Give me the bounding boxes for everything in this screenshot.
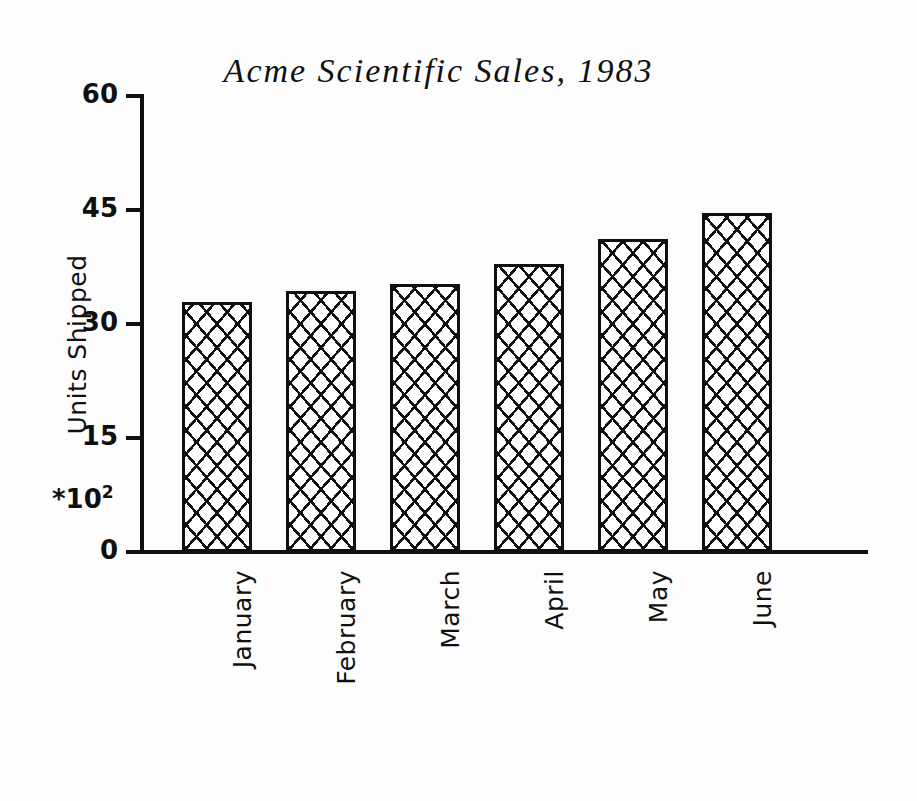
x-axis-tick-label: February: [332, 370, 361, 570]
bar-chart-figure: Acme Scientific Sales, 1983 604530150 Un…: [0, 0, 917, 801]
x-axis-tick-label: May: [644, 370, 673, 570]
x-axis-tick-label-text: January: [228, 570, 257, 770]
x-axis-tick-label: March: [436, 370, 465, 570]
x-axis-tick-label-text: February: [332, 570, 361, 770]
x-axis-tick-label-text: May: [644, 570, 673, 770]
x-axis-tick-label-text: March: [436, 570, 465, 770]
x-axis-tick-label: June: [748, 370, 777, 570]
x-axis-tick-label: April: [540, 370, 569, 570]
x-axis-tick-label-text: June: [748, 570, 777, 770]
x-axis-tick-label-text: April: [540, 570, 569, 770]
x-axis-tick-label: January: [228, 370, 257, 570]
